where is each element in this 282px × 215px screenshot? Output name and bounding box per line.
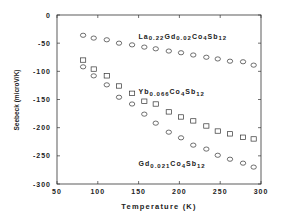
circle-marker [104, 38, 109, 42]
circle-marker [251, 63, 256, 67]
circle-marker [227, 157, 232, 161]
data-series [80, 33, 256, 169]
circle-marker [166, 49, 171, 53]
square-marker [142, 99, 147, 103]
x-tick-label: 150 [131, 188, 146, 195]
circle-marker [153, 121, 158, 125]
y-tick-label: -250 [33, 152, 51, 159]
circle-marker [215, 153, 220, 157]
circle-marker [240, 161, 245, 165]
y-tick-label: 0 [46, 12, 51, 19]
circle-marker [142, 45, 147, 49]
circle-marker [91, 74, 96, 78]
x-tick-label: 50 [52, 188, 62, 195]
circle-marker [116, 41, 121, 45]
square-marker [227, 132, 232, 136]
circle-marker [116, 95, 121, 99]
series-annotation: Yb0.066Co4Sb12 [139, 88, 205, 97]
circle-marker [153, 47, 158, 51]
circle-marker [204, 55, 209, 59]
y-tick-label: -50 [38, 40, 51, 47]
square-marker [81, 58, 86, 62]
y-axis-label: Seebeck (microV/K) [13, 69, 21, 130]
circle-marker [227, 59, 232, 63]
series-annotations: La0.22Gd0.02Co4Sb12Yb0.066Co4Sb12Gd0.021… [139, 33, 228, 169]
x-tick-label: 300 [254, 188, 269, 195]
y-tick-label: -200 [33, 124, 51, 131]
square-marker [204, 124, 209, 128]
circle-marker [191, 143, 196, 147]
circle-marker [104, 83, 109, 87]
x-axis-label: Temperature (K) [121, 202, 196, 211]
series-annotation: Gd0.021Co4Sb12 [139, 160, 206, 169]
circle-marker [191, 53, 196, 57]
circle-marker [178, 136, 183, 140]
y-tick-label: -150 [33, 96, 51, 103]
circle-marker [240, 60, 245, 64]
square-marker [91, 67, 96, 71]
y-tick-label: -100 [33, 68, 51, 75]
circle-marker [80, 65, 85, 69]
x-tick-label: 250 [213, 188, 228, 195]
square-marker [104, 74, 109, 78]
circle-marker [129, 102, 134, 106]
circle-marker [204, 147, 209, 151]
seebeck-chart: 0-50-100-150-200-250-300 501001502002503… [0, 0, 282, 215]
x-tick-label: 200 [172, 188, 187, 195]
x-tick-label: 100 [90, 188, 105, 195]
square-marker [153, 102, 158, 106]
square-marker [240, 135, 245, 139]
square-marker [129, 91, 134, 95]
square-marker [178, 115, 183, 119]
series-annotation: La0.22Gd0.02Co4Sb12 [139, 33, 228, 42]
square-marker [191, 119, 196, 123]
square-marker [116, 84, 121, 88]
circle-marker [166, 130, 171, 134]
circle-marker [91, 36, 96, 40]
circle-marker [129, 43, 134, 47]
circle-marker [178, 51, 183, 55]
square-marker [166, 110, 171, 114]
circle-marker [215, 57, 220, 61]
circle-marker [80, 33, 85, 37]
y-tick-label: -300 [33, 181, 51, 188]
square-marker [251, 137, 256, 141]
circle-marker [251, 165, 256, 169]
square-marker [215, 129, 220, 133]
circle-marker [142, 112, 147, 116]
